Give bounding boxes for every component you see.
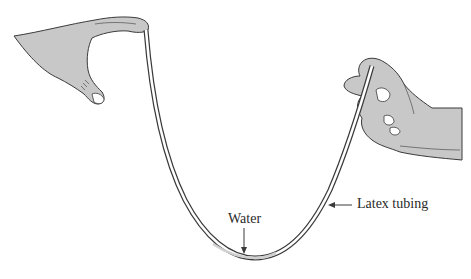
- latex-tubing-diagram: Water Latex tubing: [0, 0, 471, 279]
- latex-tubing-label: Latex tubing: [357, 196, 428, 212]
- water-label: Water: [228, 211, 261, 227]
- left-hand-illustration: [14, 17, 149, 104]
- diagram-canvas: [0, 0, 471, 279]
- water-pointer-arrow: [241, 228, 247, 254]
- tubing-pointer-arrow: [328, 202, 352, 208]
